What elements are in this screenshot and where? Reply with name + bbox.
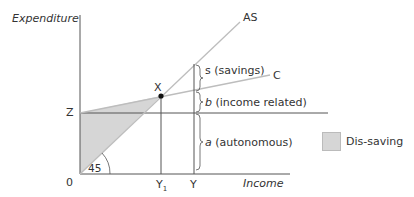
savings-label: s (savings) <box>205 64 265 77</box>
brace-b <box>196 92 203 112</box>
income-related-label: b (income related) <box>205 96 307 109</box>
a-var: a <box>205 136 212 149</box>
legend-swatch <box>322 132 341 151</box>
x-axis-label: Income <box>243 177 283 190</box>
y-axis-label: Expenditure <box>12 12 79 25</box>
y1-tick-label: Y1 <box>156 178 167 196</box>
angle-arc <box>102 153 110 174</box>
a-text: (autonomous) <box>212 136 293 149</box>
b-text: (income related) <box>212 96 307 109</box>
as-label: AS <box>243 11 258 24</box>
point-x-label: X <box>154 81 162 94</box>
brace-s <box>196 65 203 91</box>
y-tick-label: Y <box>190 178 197 191</box>
c-label: C <box>273 69 281 82</box>
brace-a <box>196 114 203 170</box>
origin-label: 0 <box>66 176 73 189</box>
autonomous-label: a (autonomous) <box>205 136 292 149</box>
y1-subscript: 1 <box>163 185 167 193</box>
b-var: b <box>205 96 212 109</box>
y1-main: Y <box>156 178 163 191</box>
equilibrium-point <box>158 93 163 98</box>
z-label: Z <box>66 106 74 119</box>
angle-label: 45 <box>88 162 101 175</box>
legend-label: Dis-saving <box>346 135 403 148</box>
